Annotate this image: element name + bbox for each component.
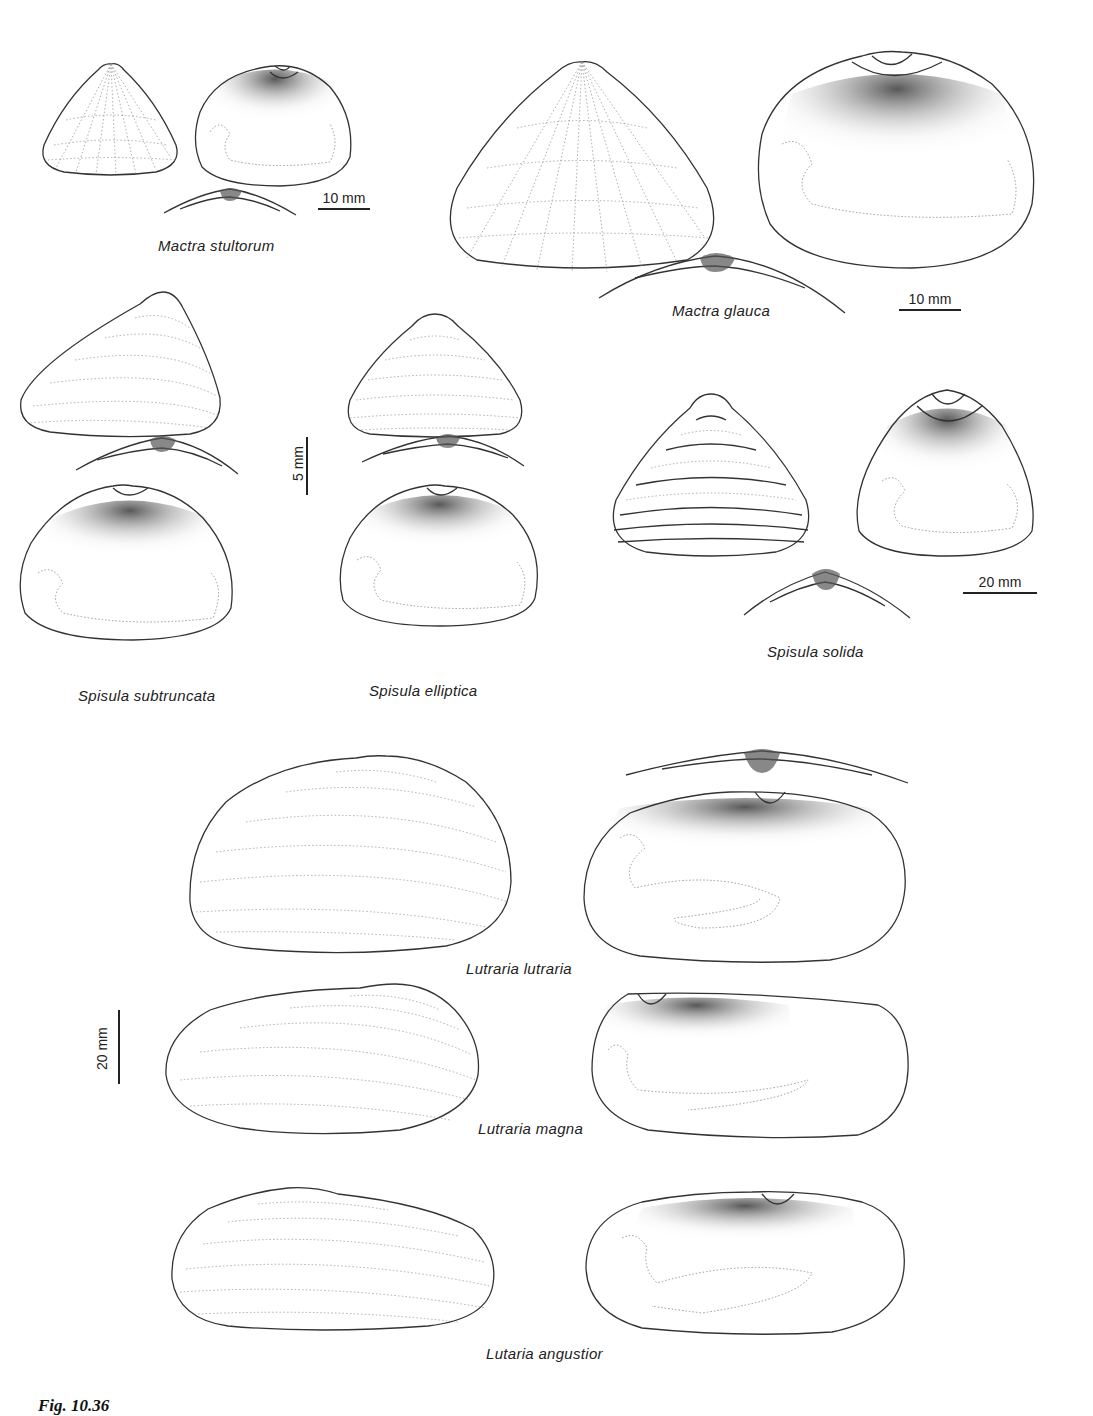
spisula-elliptica-interior-drawing	[335, 480, 545, 630]
scale-line	[306, 437, 308, 495]
species-label-spisula-elliptica: Spisula elliptica	[369, 682, 478, 699]
species-label-lutraria-magna: Lutraria magna	[478, 1120, 583, 1137]
scale-label: 20 mm	[963, 574, 1037, 590]
species-label-lutraria-lutraria: Lutraria lutraria	[466, 960, 572, 977]
lutaria-angustior-exterior-drawing	[168, 1184, 498, 1334]
species-label-mactra-glauca: Mactra glauca	[672, 302, 770, 319]
scale-line	[318, 208, 370, 210]
scale-line	[118, 1010, 120, 1084]
mactra-stultorum-interior-drawing	[190, 62, 360, 192]
species-label-spisula-solida: Spisula solida	[767, 643, 864, 660]
lutaria-angustior-interior-drawing	[582, 1188, 910, 1338]
lutraria-lutraria-interior-drawing	[580, 788, 910, 966]
scale-label: 10 mm	[899, 291, 961, 307]
scale-label: 20 mm	[94, 1027, 110, 1070]
species-label-spisula-subtruncata: Spisula subtruncata	[78, 687, 215, 704]
spisula-solida-exterior-drawing	[596, 390, 826, 560]
scale-line	[963, 592, 1037, 594]
spisula-solida-hinge-drawing	[740, 560, 915, 620]
lutraria-lutraria-exterior-drawing	[186, 752, 516, 958]
mactra-glauca-scale-bar: 10 mm	[899, 291, 961, 311]
spisula-vertical-scale-bar: 5 mm	[290, 437, 310, 497]
mactra-stultorum-scale-bar: 10 mm	[318, 190, 370, 210]
lutraria-magna-interior-drawing	[588, 990, 913, 1142]
spisula-elliptica-hinge-drawing	[358, 430, 528, 470]
spisula-subtruncata-hinge-drawing	[72, 430, 242, 478]
figure-label: Fig. 10.36	[38, 1396, 109, 1416]
spisula-subtruncata-interior-drawing	[13, 478, 243, 644]
spisula-solida-scale-bar: 20 mm	[963, 574, 1037, 594]
mactra-stultorum-hinge-drawing	[160, 183, 300, 218]
lutraria-lutraria-hinge-drawing	[622, 745, 912, 790]
scale-label: 5 mm	[290, 446, 306, 481]
lutraria-magna-exterior-drawing	[160, 980, 485, 1138]
scale-line	[899, 309, 961, 311]
spisula-elliptica-exterior-drawing	[340, 310, 530, 442]
species-label-lutaria-angustior: Lutaria angustior	[486, 1345, 603, 1362]
spisula-solida-interior-drawing	[847, 386, 1047, 560]
species-label-mactra-stultorum: Mactra stultorum	[158, 237, 275, 254]
scale-label: 10 mm	[318, 190, 370, 206]
mactra-stultorum-exterior-drawing	[36, 60, 186, 180]
lutraria-vertical-scale-bar: 20 mm	[92, 1010, 122, 1090]
spisula-subtruncata-exterior-drawing	[15, 288, 225, 440]
